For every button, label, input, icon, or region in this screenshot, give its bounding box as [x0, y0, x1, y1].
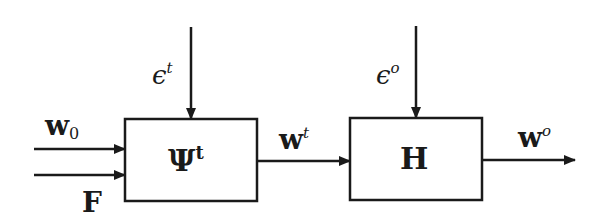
eps-t-label: ϵt	[152, 62, 173, 88]
wt-superscript: t	[303, 124, 309, 142]
w0-symbol: w	[45, 109, 69, 142]
eps-o-symbol: ϵ	[376, 60, 391, 90]
wo-label: wo	[518, 124, 551, 152]
w0-label: w0	[45, 112, 79, 140]
eps-t-symbol: ϵ	[152, 60, 167, 90]
eps-t-superscript: t	[167, 59, 173, 77]
psi-symbol: Ψ	[168, 143, 195, 178]
eps-o-superscript: o	[391, 59, 400, 77]
w0-subscript: 0	[69, 124, 79, 143]
wt-symbol: w	[279, 123, 303, 156]
psi-superscript: t	[195, 142, 203, 163]
eps-o-label: ϵo	[376, 62, 400, 88]
h-symbol: H	[400, 141, 428, 176]
wt-label: wt	[279, 126, 309, 154]
h-block-label: H	[400, 144, 428, 174]
F-label: F	[82, 189, 102, 217]
psi-block-label: Ψt	[168, 146, 204, 176]
F-symbol: F	[82, 186, 102, 219]
wo-superscript: o	[542, 122, 551, 140]
wo-symbol: w	[518, 121, 542, 154]
